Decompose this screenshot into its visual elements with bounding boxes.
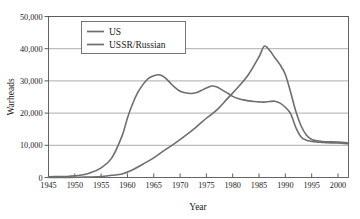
- legend: US USSR/Russian: [82, 22, 186, 54]
- x-tick-label: 1955: [93, 181, 109, 190]
- x-tick-label: 1985: [251, 181, 267, 190]
- y-tick-label: 40,000: [20, 45, 43, 54]
- y-axis-title: Warheads: [6, 78, 16, 116]
- warheads-line-chart: 010,00020,00030,00040,00050,000 19451950…: [0, 0, 360, 219]
- legend-label-ussr: USSR/Russian: [109, 40, 166, 50]
- x-tick-label: 1960: [119, 181, 135, 190]
- y-tick-label: 50,000: [20, 13, 43, 22]
- legend-label-us: US: [109, 27, 121, 37]
- series-line-ussr-russian: [49, 46, 349, 178]
- x-tick-label: 1945: [40, 181, 56, 190]
- x-tick-label: 1970: [172, 181, 188, 190]
- x-tick-label: 1965: [146, 181, 162, 190]
- x-tick-labels: 1945195019551960196519701975198019851990…: [40, 181, 346, 190]
- x-tick-label: 1950: [67, 181, 83, 190]
- x-tick-label: 1995: [303, 181, 319, 190]
- y-tick-marks: [45, 17, 49, 178]
- y-tick-labels: 010,00020,00030,00040,00050,000: [20, 13, 43, 183]
- y-tick-label: 20,000: [20, 109, 43, 118]
- x-tick-label: 2000: [330, 181, 346, 190]
- x-tick-label: 1980: [225, 181, 241, 190]
- chart-figure: 010,00020,00030,00040,00050,000 19451950…: [0, 0, 360, 219]
- data-series: [49, 46, 349, 178]
- y-tick-label: 30,000: [20, 77, 43, 86]
- x-tick-label: 1990: [277, 181, 293, 190]
- y-tick-label: 10,000: [20, 141, 43, 150]
- x-tick-label: 1975: [198, 181, 214, 190]
- x-axis-title: Year: [189, 202, 207, 212]
